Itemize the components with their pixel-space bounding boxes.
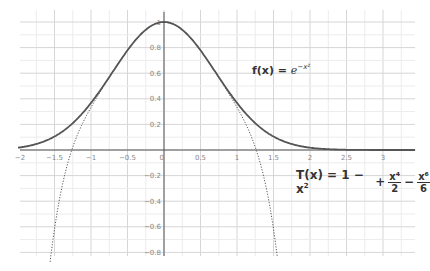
y-tick-label: 0.6 (150, 70, 162, 78)
x-tick-label: −0.5 (119, 154, 136, 162)
f-exponent: −x² (297, 63, 310, 71)
x-tick-label: 0.5 (195, 154, 206, 162)
y-tick-label: 0.8 (150, 44, 161, 52)
f-prefix: f(x) = (252, 64, 291, 77)
x-tick-label: 0 (160, 154, 164, 162)
fraction-x6-over-6: x⁶6 (417, 171, 430, 194)
t-square: 2 (304, 182, 309, 190)
x-tick-label: 3 (381, 154, 385, 162)
y-tick-label: 0.2 (150, 121, 161, 129)
taylor-formula-label: T(x) = 1 − x2 + x⁴2 − x⁶6 (296, 168, 430, 196)
x-tick-label: 2.5 (341, 154, 352, 162)
x-tick-label: 1 (235, 154, 239, 162)
frac2-num: x⁶ (417, 171, 430, 183)
t-minus: − (404, 175, 414, 189)
frac2-den: 6 (420, 183, 427, 194)
y-tick-label: −0.4 (144, 198, 162, 206)
x-tick-label: −1.5 (46, 154, 63, 162)
y-tick-label: −0.8 (144, 249, 161, 257)
x-tick-label: −2 (15, 154, 25, 162)
frac1-den: 2 (391, 183, 398, 194)
grid (20, 10, 415, 256)
axes (20, 12, 415, 256)
x-tick-label: −1 (86, 154, 96, 162)
function-plot: −2−1.5−1−0.500.511.522.5310.80.60.40.2−0… (0, 0, 430, 271)
y-tick-label: −0.6 (144, 223, 162, 231)
frac1-num: x⁴ (388, 171, 401, 183)
y-tick-label: −0.2 (144, 172, 161, 180)
x-tick-label: 2 (308, 154, 312, 162)
t-plus: + (375, 175, 385, 189)
x-tick-label: 1.5 (268, 154, 279, 162)
fraction-x4-over-2: x⁴2 (388, 171, 401, 194)
f-formula-label: f(x) = e−x² (252, 63, 310, 77)
y-tick-label: 0.4 (150, 95, 162, 103)
